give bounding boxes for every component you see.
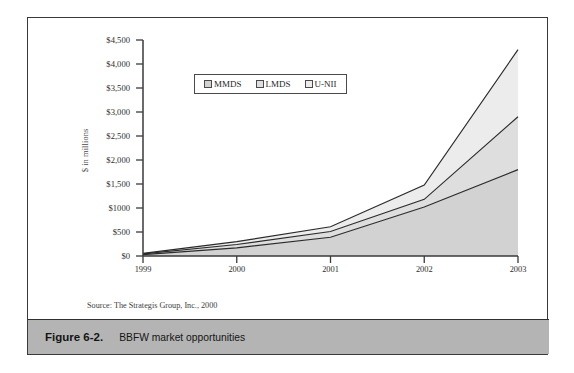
legend-label: LMDS [266,79,291,89]
chart-plot-area: $0$500$1000$1,500$2,000$2,500$3,000$3,50… [28,18,549,300]
legend-swatch-icon [256,80,264,88]
y-axis-ticks [136,40,143,256]
legend-swatch-icon [204,80,212,88]
legend-swatch-icon [305,80,313,88]
legend-entry-lmds: LMDS [256,79,291,89]
x-axis-tick-label: 1999 [113,265,173,274]
x-axis-ticks [143,256,518,263]
legend-label: U-NII [315,79,337,89]
figure-caption-text: BBFW market opportunities [119,332,245,343]
y-axis-tick-label: $4,500 [78,35,130,45]
y-axis-tick-label: $4,000 [78,59,130,69]
chart-legend: MMDSLMDSU-NII [194,74,347,94]
figure-caption-bar: Figure 6-2. BBFW market opportunities [28,319,549,354]
figure-frame: $0$500$1000$1,500$2,000$2,500$3,000$3,50… [27,17,548,355]
x-axis-tick-label: 2001 [301,265,361,274]
y-axis-title: $ in millions [81,91,90,211]
legend-entry-mmds: MMDS [204,79,242,89]
x-axis-tick-label: 2002 [394,265,454,274]
legend-entry-u-nii: U-NII [305,79,337,89]
figure-caption-number: Figure 6-2. [45,331,103,343]
source-note: Source: The Strategis Group, Inc., 2000 [87,301,217,310]
x-axis-tick-label: 2003 [488,265,548,274]
x-axis-tick-label: 2000 [207,265,267,274]
legend-label: MMDS [214,79,242,89]
y-axis-tick-label: $500 [78,227,130,237]
y-axis-tick-label: $0 [78,251,130,261]
